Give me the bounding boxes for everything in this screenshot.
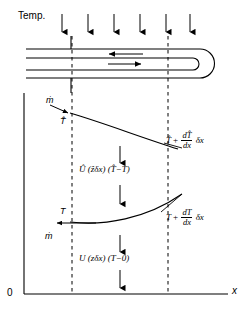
thermal-schematic-figure: Temp. 0 x ṁ T̂ ṁ T T̂ + dT̂ dx δx T + dT… bbox=[0, 0, 246, 320]
lower-formula-derivative: dT dx bbox=[181, 208, 192, 227]
upper-formula-denominator: dx bbox=[181, 141, 192, 150]
schematic-drawing bbox=[0, 0, 246, 320]
lower-formula-denominator: dx bbox=[181, 218, 192, 227]
lower-outlet-temperature-formula: T + dT dx δx bbox=[166, 209, 204, 228]
lower-formula-main: T bbox=[166, 212, 171, 222]
upper-temperature-curve bbox=[70, 113, 178, 149]
upper-formula-main: T̂ bbox=[166, 135, 171, 145]
lower-formula-tail: δx bbox=[196, 212, 204, 222]
upper-inlet-massflow-label: ṁ bbox=[46, 96, 54, 105]
upper-formula-derivative: dT̂ dx bbox=[181, 131, 192, 150]
outer-heat-transfer-term: U (zδx) (T−0) bbox=[79, 254, 129, 263]
lower-formula-plus: + bbox=[173, 212, 178, 222]
upper-outlet-temperature-formula: T̂ + dT̂ dx δx bbox=[166, 132, 204, 151]
upper-inlet-temperature-label: T̂ bbox=[60, 117, 66, 126]
lower-outlet-massflow-label: ṁ bbox=[45, 232, 53, 241]
y-axis-label: Temp. bbox=[18, 11, 45, 21]
mdot-leader-upper bbox=[50, 105, 68, 113]
x-axis-label: x bbox=[232, 286, 237, 296]
upper-formula-tail: δx bbox=[196, 135, 204, 145]
inner-heat-transfer-term: Û (ẑδx) (T̂−T) bbox=[79, 165, 130, 174]
external-heat-arrows bbox=[62, 14, 190, 32]
upper-formula-plus: + bbox=[173, 135, 178, 145]
lower-inlet-temperature-label: T bbox=[60, 207, 66, 216]
origin-label: 0 bbox=[7, 288, 13, 298]
plot-axes bbox=[24, 93, 228, 294]
